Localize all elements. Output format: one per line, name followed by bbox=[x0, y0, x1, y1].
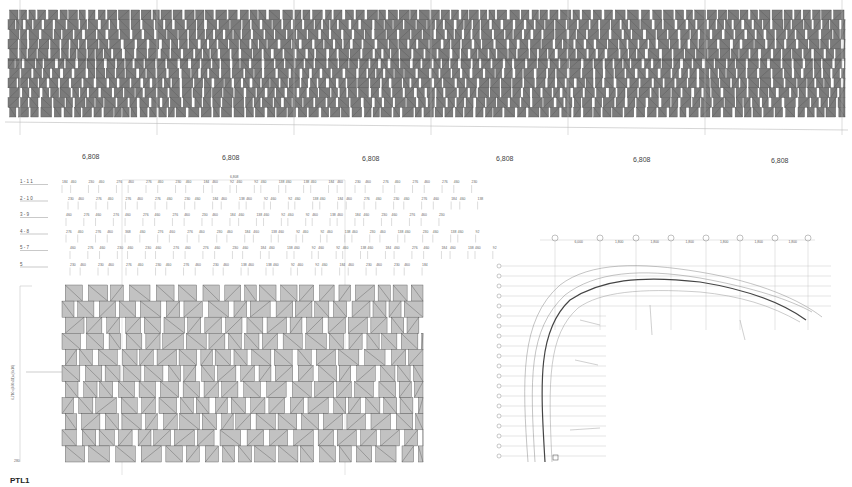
svg-text:230: 230 bbox=[232, 246, 238, 250]
svg-text:184: 184 bbox=[422, 263, 428, 267]
svg-text:460: 460 bbox=[108, 263, 114, 267]
svg-text:92: 92 bbox=[296, 230, 300, 234]
svg-text:276: 276 bbox=[173, 246, 179, 250]
svg-text:2 - 1 0: 2 - 1 0 bbox=[20, 196, 33, 201]
svg-text:6,808: 6,808 bbox=[82, 153, 100, 160]
svg-text:460: 460 bbox=[327, 230, 333, 234]
svg-text:6,000: 6,000 bbox=[575, 240, 584, 244]
elevation-detail-pattern: 6,710=(460x11)+(6x10)280 bbox=[11, 285, 423, 463]
svg-text:460: 460 bbox=[108, 197, 114, 201]
svg-text:138: 138 bbox=[345, 230, 351, 234]
svg-text:276: 276 bbox=[187, 230, 193, 234]
svg-text:92: 92 bbox=[336, 246, 340, 250]
curved-plan-view: 6,0001,8001,8001,8001,8001,8001,800 bbox=[497, 235, 831, 462]
svg-text:276: 276 bbox=[158, 230, 164, 234]
svg-text:230: 230 bbox=[366, 263, 372, 267]
svg-text:460: 460 bbox=[138, 263, 144, 267]
svg-text:460: 460 bbox=[278, 230, 284, 234]
svg-text:276: 276 bbox=[412, 246, 418, 250]
svg-text:460: 460 bbox=[70, 246, 76, 250]
svg-text:6,808: 6,808 bbox=[633, 156, 651, 163]
svg-text:460: 460 bbox=[376, 263, 382, 267]
svg-text:184: 184 bbox=[338, 197, 344, 201]
svg-text:1,800: 1,800 bbox=[789, 240, 798, 244]
svg-text:460: 460 bbox=[212, 180, 218, 184]
svg-text:460: 460 bbox=[322, 263, 328, 267]
svg-text:1,800: 1,800 bbox=[651, 240, 660, 244]
svg-text:230: 230 bbox=[176, 180, 182, 184]
footer-label: PTL1 bbox=[10, 476, 30, 485]
svg-text:460: 460 bbox=[395, 180, 401, 184]
svg-text:276: 276 bbox=[172, 213, 178, 217]
svg-text:1,800: 1,800 bbox=[755, 240, 764, 244]
svg-text:460: 460 bbox=[271, 197, 277, 201]
svg-text:230: 230 bbox=[370, 230, 376, 234]
svg-text:230: 230 bbox=[217, 230, 223, 234]
svg-text:6,710=(460x11)+(6x10): 6,710=(460x11)+(6x10) bbox=[11, 365, 15, 400]
svg-text:138: 138 bbox=[313, 197, 319, 201]
svg-text:184: 184 bbox=[245, 230, 251, 234]
svg-text:460: 460 bbox=[392, 213, 398, 217]
svg-text:460: 460 bbox=[158, 180, 164, 184]
svg-text:184: 184 bbox=[441, 246, 447, 250]
svg-text:138: 138 bbox=[279, 180, 285, 184]
svg-text:460: 460 bbox=[223, 263, 229, 267]
svg-text:184: 184 bbox=[340, 263, 346, 267]
svg-text:230: 230 bbox=[472, 180, 478, 184]
svg-text:184: 184 bbox=[62, 180, 68, 184]
svg-text:460: 460 bbox=[475, 246, 481, 250]
svg-text:460: 460 bbox=[424, 180, 430, 184]
svg-text:460: 460 bbox=[365, 180, 371, 184]
svg-text:460: 460 bbox=[364, 213, 370, 217]
svg-text:230: 230 bbox=[213, 263, 219, 267]
svg-text:276: 276 bbox=[364, 197, 370, 201]
svg-text:460: 460 bbox=[348, 263, 354, 267]
svg-text:460: 460 bbox=[215, 246, 221, 250]
svg-text:460: 460 bbox=[352, 230, 358, 234]
svg-text:138: 138 bbox=[266, 263, 272, 267]
svg-text:138: 138 bbox=[304, 180, 310, 184]
svg-text:460: 460 bbox=[458, 230, 464, 234]
svg-text:460: 460 bbox=[221, 197, 227, 201]
svg-text:460: 460 bbox=[460, 197, 466, 201]
svg-text:1,800: 1,800 bbox=[686, 240, 695, 244]
svg-text:460: 460 bbox=[96, 213, 102, 217]
svg-text:230: 230 bbox=[423, 230, 429, 234]
svg-text:230: 230 bbox=[98, 263, 104, 267]
svg-text:280: 280 bbox=[14, 459, 20, 463]
svg-text:230: 230 bbox=[185, 197, 191, 201]
svg-text:460: 460 bbox=[454, 180, 460, 184]
svg-text:460: 460 bbox=[312, 213, 318, 217]
svg-text:184: 184 bbox=[385, 246, 391, 250]
svg-text:92: 92 bbox=[476, 230, 480, 234]
svg-text:92: 92 bbox=[312, 246, 316, 250]
svg-text:460: 460 bbox=[273, 263, 279, 267]
svg-text:92: 92 bbox=[291, 263, 295, 267]
svg-text:4 - 8: 4 - 8 bbox=[20, 229, 30, 234]
svg-text:460: 460 bbox=[343, 246, 349, 250]
svg-text:460: 460 bbox=[450, 246, 456, 250]
svg-text:276: 276 bbox=[126, 263, 132, 267]
svg-text:460: 460 bbox=[125, 213, 131, 217]
svg-text:460: 460 bbox=[394, 246, 400, 250]
svg-text:276: 276 bbox=[116, 180, 122, 184]
svg-text:460: 460 bbox=[433, 230, 439, 234]
svg-text:138: 138 bbox=[451, 230, 457, 234]
svg-text:184: 184 bbox=[204, 180, 210, 184]
svg-text:460: 460 bbox=[243, 246, 249, 250]
svg-text:460: 460 bbox=[346, 197, 352, 201]
svg-text:460: 460 bbox=[320, 197, 326, 201]
svg-text:184: 184 bbox=[355, 213, 361, 217]
svg-text:230: 230 bbox=[145, 246, 151, 250]
svg-text:230: 230 bbox=[394, 263, 400, 267]
svg-text:460: 460 bbox=[185, 246, 191, 250]
svg-text:460: 460 bbox=[195, 263, 201, 267]
svg-text:138: 138 bbox=[256, 213, 262, 217]
svg-text:460: 460 bbox=[404, 197, 410, 201]
svg-text:92: 92 bbox=[264, 197, 268, 201]
svg-text:460: 460 bbox=[155, 213, 161, 217]
svg-text:368: 368 bbox=[125, 230, 131, 234]
svg-text:184: 184 bbox=[451, 197, 457, 201]
svg-text:6,808: 6,808 bbox=[222, 154, 240, 161]
svg-text:184: 184 bbox=[260, 246, 266, 250]
